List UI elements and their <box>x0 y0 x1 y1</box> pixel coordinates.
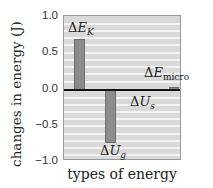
y-tick-neg-0-5: −0.5 <box>28 118 58 130</box>
zero-line <box>63 89 181 91</box>
label-delta-emicro: ΔEmicro <box>144 65 189 82</box>
grid-stripe <box>64 133 180 135</box>
bar-delta-ek <box>74 39 85 90</box>
label-delta-ug: ΔUg <box>100 143 126 160</box>
grid-stripe <box>64 111 180 113</box>
grid-stripe <box>64 97 180 99</box>
y-tick-0-5: 0.5 <box>28 45 58 57</box>
y-tick-neg-1: −1.0 <box>28 154 58 166</box>
y-tick-0: 0.0 <box>28 82 58 94</box>
bar-delta-ug <box>105 90 116 143</box>
y-axis-label: changes in energy (J) <box>8 21 24 167</box>
grid-stripe <box>64 125 180 127</box>
y-tick-1: 1.0 <box>28 9 58 21</box>
grid-stripe <box>64 118 180 120</box>
x-axis-label: types of energy <box>63 166 181 182</box>
label-delta-us: ΔUs <box>130 94 155 111</box>
label-delta-ek: ΔEK <box>68 20 94 37</box>
grid-stripe <box>64 104 180 106</box>
grid-stripe <box>64 140 180 142</box>
